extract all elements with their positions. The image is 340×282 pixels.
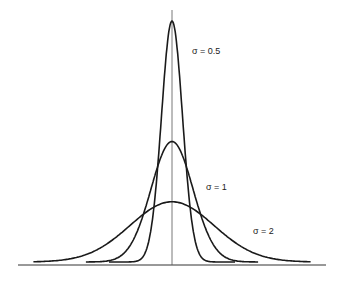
label-sigma-2: σ = 2	[253, 226, 274, 236]
plot-area	[0, 0, 340, 282]
label-sigma-0-5: σ = 0.5	[192, 46, 220, 56]
label-sigma-1: σ = 1	[206, 182, 227, 192]
normal-distribution-chart: σ = 0.5 σ = 1 σ = 2	[0, 0, 340, 282]
